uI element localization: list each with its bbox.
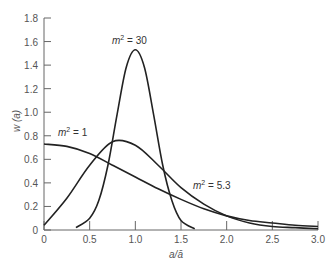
line-chart: 00.20.40.60.81.01.21.41.61.800.51.01.52.… (0, 0, 335, 271)
x-tick-label: 3.0 (311, 234, 325, 245)
y-tick-label: 1.0 (24, 107, 38, 118)
series-line-0 (44, 144, 318, 226)
series-line-2 (76, 50, 195, 229)
annotation-m2-5-3: m2 = 5.3 (193, 179, 231, 191)
y-tick-label: 0.8 (24, 131, 38, 142)
y-axis-label: w (a) (11, 110, 22, 132)
y-tick-label: 0.6 (24, 154, 38, 165)
y-tick-label: 1.2 (24, 84, 38, 95)
x-tick-label: 1.0 (128, 234, 142, 245)
x-tick-label: 1.5 (174, 234, 188, 245)
x-tick-label: 0.5 (83, 234, 97, 245)
x-tick-label: 0 (41, 234, 47, 245)
chart-container: 00.20.40.60.81.01.21.41.61.800.51.01.52.… (0, 0, 335, 271)
x-tick-label: 2.5 (265, 234, 279, 245)
y-tick-label: 0 (32, 225, 38, 236)
y-tick-label: 1.4 (24, 60, 38, 71)
y-tick-label: 1.8 (24, 13, 38, 24)
curves (44, 50, 318, 229)
annotation-m2-30: m2 = 30 (112, 34, 147, 46)
y-tick-label: 1.6 (24, 37, 38, 48)
x-tick-label: 2.0 (220, 234, 234, 245)
annotation-m2-1: m2 = 1 (58, 126, 88, 138)
series-line-1 (44, 140, 318, 229)
y-tick-label: 0.4 (24, 178, 38, 189)
y-tick-label: 0.2 (24, 201, 38, 212)
x-axis-label: a/ā (169, 249, 183, 260)
